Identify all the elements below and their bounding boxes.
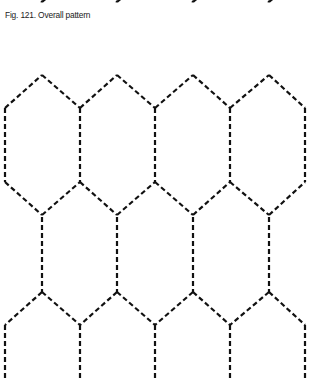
hexagon-edge — [42, 292, 80, 325]
hexagon-edge — [5, 292, 42, 325]
hexagon-edge — [269, 182, 305, 215]
hexagon-edge — [155, 182, 193, 215]
hexagon-edge — [35, 0, 42, 2]
hexagon-pattern — [0, 0, 310, 379]
hexagon-edge — [110, 0, 117, 2]
hexagon-edge — [42, 0, 49, 2]
hexagon-edge — [117, 182, 155, 215]
hexagon-edge — [155, 292, 193, 325]
hexagon-edge — [117, 75, 155, 108]
hexagon-edge — [186, 0, 193, 2]
hexagon-edge — [269, 75, 305, 108]
hexagon-edge — [269, 292, 305, 325]
hexagon-edge — [117, 0, 124, 2]
hexagon-edge — [193, 0, 200, 2]
hexagon-edge — [269, 0, 276, 2]
hexagon-edge — [117, 292, 155, 325]
hexagon-edge — [80, 75, 117, 108]
hexagon-edge — [155, 75, 193, 108]
hexagon-edge — [230, 75, 269, 108]
hexagon-edge — [80, 182, 117, 215]
hexagon-edge — [262, 0, 269, 2]
hexagon-edge — [42, 75, 80, 108]
hexagon-edge — [80, 292, 117, 325]
hexagon-edge — [5, 182, 42, 215]
hexagon-edge — [193, 292, 230, 325]
hexagon-edge — [5, 75, 42, 108]
hexagon-edge — [230, 292, 269, 325]
hexagon-edge — [193, 182, 230, 215]
hexagon-edge — [193, 75, 230, 108]
hexagon-edge — [230, 182, 269, 215]
hexagon-edge — [42, 182, 80, 215]
